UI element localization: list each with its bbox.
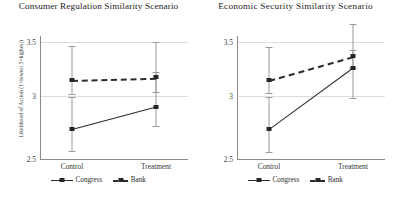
legend-key-dashed-line-icon xyxy=(113,177,128,184)
legend-item-congress: Congress xyxy=(51,176,102,184)
errorbar-congress-control xyxy=(269,97,270,152)
errorbar-cap xyxy=(350,98,357,99)
xtick-label-control: Control xyxy=(258,162,281,171)
errorbar-cap xyxy=(69,94,76,95)
legend-label-bank: Bank xyxy=(131,176,146,184)
errorbar-cap xyxy=(266,97,273,98)
legend-key-dashed-line-icon xyxy=(310,177,325,184)
errorbar-bank-control xyxy=(269,47,270,93)
ytick-label-3: 3 xyxy=(32,92,36,101)
y-axis-line xyxy=(237,36,238,160)
errorbar-cap xyxy=(153,92,160,93)
gridline-3-5 xyxy=(238,42,385,43)
errorbar-cap xyxy=(153,42,160,43)
figure-two-panel-interaction-plot: Consumer Regulation Similarity Scenario … xyxy=(0,0,395,199)
datapoint-bank-treatment xyxy=(154,75,159,79)
y-axis-label: Likelihood of Action (1=lowest 5=highest… xyxy=(18,27,24,151)
errorbar-cap xyxy=(350,24,357,25)
x-axis-line xyxy=(40,159,188,160)
datapoint-congress-control xyxy=(267,127,272,131)
xtick-label-treatment: Treatment xyxy=(141,162,171,171)
panel-economic-security: Economic Security Similarity Scenario 3.… xyxy=(197,0,394,199)
errorbar-cap xyxy=(153,126,160,127)
plot-area: 3.5 3 2.5 Control Treatment xyxy=(237,36,385,160)
ytick-label-3-5: 3.5 xyxy=(224,38,233,47)
plot-area: 3.5 3 2.5 Control Treatment xyxy=(40,36,188,160)
legend-item-bank: Bank xyxy=(310,176,343,184)
legend-key-solid-line-icon xyxy=(51,177,73,184)
ytick-label-2-5: 2.5 xyxy=(224,155,233,164)
errorbar-cap xyxy=(266,93,273,94)
legend-item-congress: Congress xyxy=(248,176,299,184)
datapoint-bank-control xyxy=(70,78,75,82)
panel-title: Consumer Regulation Similarity Scenario xyxy=(0,1,197,11)
legend-item-bank: Bank xyxy=(113,176,146,184)
ytick-label-2-5: 2.5 xyxy=(27,155,36,164)
errorbar-cap xyxy=(266,47,273,48)
datapoint-bank-control xyxy=(267,78,272,82)
errorbar-cap xyxy=(69,46,76,47)
datapoint-bank-treatment xyxy=(351,54,356,58)
errorbar-cap xyxy=(69,151,76,152)
gridline-3 xyxy=(41,96,188,97)
datapoint-congress-control xyxy=(70,127,75,131)
errorbar-bank-treatment xyxy=(156,42,157,92)
xtick-label-control: Control xyxy=(61,162,84,171)
series-line-congress xyxy=(72,107,156,130)
series-line-bank xyxy=(72,77,156,81)
ytick-label-3: 3 xyxy=(229,92,233,101)
legend: Congress Bank xyxy=(0,176,197,184)
panel-consumer-regulation: Consumer Regulation Similarity Scenario … xyxy=(0,0,197,199)
gridline-3-5 xyxy=(41,42,188,43)
x-axis-line xyxy=(237,159,385,160)
errorbar-cap xyxy=(69,97,76,98)
y-axis-line xyxy=(40,36,41,160)
legend-key-solid-line-icon xyxy=(248,177,270,184)
legend-label-congress: Congress xyxy=(76,176,103,184)
errorbar-cap xyxy=(266,152,273,153)
datapoint-congress-treatment xyxy=(351,66,356,70)
xtick-label-treatment: Treatment xyxy=(338,162,368,171)
errorbar-bank-treatment xyxy=(353,24,354,68)
errorbar-bank-control xyxy=(72,46,73,94)
datapoint-congress-treatment xyxy=(154,105,159,109)
legend-label-bank: Bank xyxy=(328,176,343,184)
legend: Congress Bank xyxy=(197,176,394,184)
errorbar-congress-control xyxy=(72,97,73,151)
panel-title: Economic Security Similarity Scenario xyxy=(197,1,394,11)
legend-label-congress: Congress xyxy=(273,176,300,184)
ytick-label-3-5: 3.5 xyxy=(27,38,36,47)
figure-footnote-clipped xyxy=(0,192,395,199)
